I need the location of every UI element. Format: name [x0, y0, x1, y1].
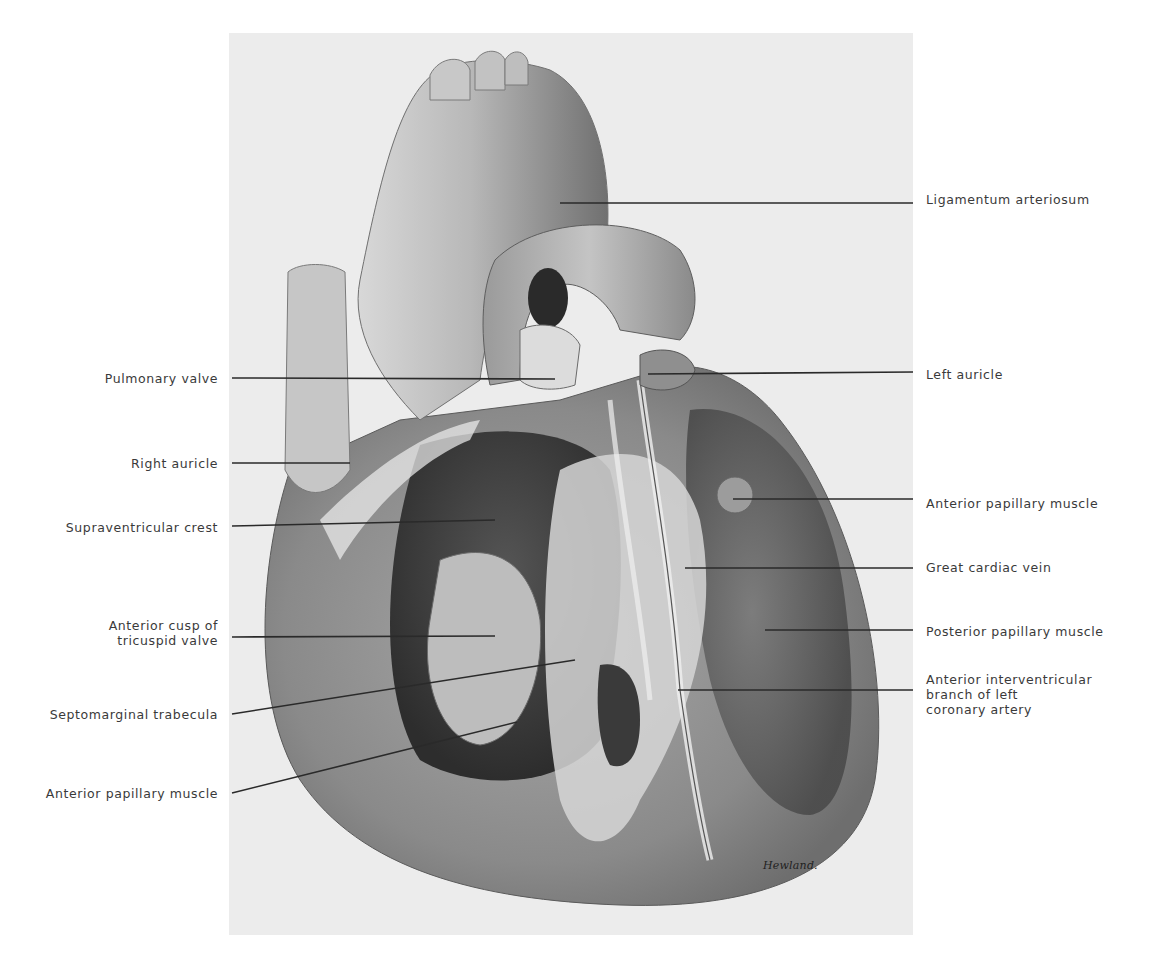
label-septomarginal-trabecula: Septomarginal trabecula [50, 707, 218, 722]
label-ligamentum-arteriosum: Ligamentum arteriosum [926, 192, 1090, 207]
label-left-auricle: Left auricle [926, 367, 1003, 382]
label-great-cardiac-vein: Great cardiac vein [926, 560, 1051, 575]
label-supraventricular-crest: Supraventricular crest [66, 520, 218, 535]
heart-illustration [229, 33, 913, 935]
label-anterior-cusp-tricuspid: Anterior cusp of tricuspid valve [109, 618, 218, 648]
label-pulmonary-valve: Pulmonary valve [105, 371, 218, 386]
label-anterior-papillary-muscle-right: Anterior papillary muscle [926, 496, 1098, 511]
label-posterior-papillary-muscle: Posterior papillary muscle [926, 624, 1104, 639]
illustration-plate: Hewland. [229, 33, 913, 935]
label-anterior-papillary-muscle-left: Anterior papillary muscle [46, 786, 218, 801]
label-right-auricle: Right auricle [131, 456, 218, 471]
label-anterior-interventricular-branch: Anterior interventricular branch of left… [926, 672, 1092, 717]
artist-signature: Hewland. [763, 859, 818, 872]
